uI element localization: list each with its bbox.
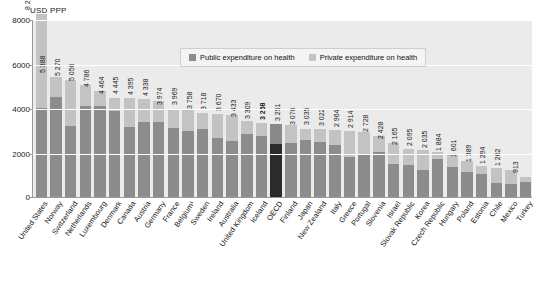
bar-segment-public <box>491 183 502 197</box>
bar-segment-private <box>226 115 237 141</box>
y-axis-tick-label: 4000 <box>12 105 30 114</box>
bar-value-label: 3 268 <box>259 103 267 121</box>
bar-column: 3 670 <box>226 115 237 197</box>
bar-value-label: 4 338 <box>142 79 150 97</box>
bar-segment-public <box>270 144 281 197</box>
bar-column: 3 251 <box>285 125 296 197</box>
bar-segment-public <box>403 165 414 197</box>
legend-label-public: Public expenditure on health <box>200 53 295 62</box>
bar-value-label: 4 395 <box>127 78 135 96</box>
bar-segment-public <box>285 143 296 198</box>
bar-segment-private <box>138 99 149 122</box>
bar-value-label: 3 718 <box>201 93 209 111</box>
y-axis-tick-label: 8000 <box>12 16 30 25</box>
bar-value-label: 4 786 <box>83 69 91 87</box>
bar-segment-public <box>417 170 428 197</box>
bar-segment-public <box>256 136 267 197</box>
bar-column: 2 095 <box>417 150 428 197</box>
bar-value-label: 2 165 <box>391 127 399 145</box>
bar-column: 5 388 <box>50 77 61 197</box>
bar-value-label: 1 601 <box>450 140 458 158</box>
bar-column: 4 395 <box>138 99 149 197</box>
bar-value-label: 2 095 <box>406 129 414 147</box>
bar-column: 4 445 <box>124 98 135 197</box>
bar-segment-public <box>94 106 105 197</box>
bar-value-label: 4 445 <box>113 77 121 95</box>
gridline <box>33 109 532 110</box>
gridline <box>33 20 532 21</box>
y-axis-tick-mark <box>30 20 33 21</box>
bar-value-label: 3 969 <box>171 87 179 105</box>
y-axis-tick-mark <box>30 65 33 66</box>
bar-value-label: 4 464 <box>98 76 106 94</box>
bar-segment-public <box>505 184 516 197</box>
bar-segment-private <box>65 80 76 126</box>
bar-segment-private <box>285 125 296 143</box>
x-axis-category-labels: United StatesNorwaySwitzerlandNetherland… <box>33 200 533 292</box>
bar-value-label: 5 056 <box>69 63 77 81</box>
bar-column: 1 202 <box>505 170 516 197</box>
bar-segment-private <box>212 114 223 138</box>
bar-segment-public <box>447 167 458 197</box>
bar-segment-public <box>432 159 443 197</box>
bar-value-label: 3 309 <box>245 102 253 120</box>
bar-column: 4 464 <box>109 98 120 197</box>
bar-segment-public <box>388 164 399 197</box>
bar-segment-private <box>476 166 487 174</box>
bar-value-label: 3 758 <box>186 92 194 110</box>
bar-value-label: 5 270 <box>54 58 62 76</box>
bar-column: 1 389 <box>476 166 487 197</box>
bar-column: 3 022 <box>329 130 340 197</box>
chart-legend: Public expenditure on health Private exp… <box>180 48 426 67</box>
bar-segment-public <box>344 157 355 197</box>
bar-segment-private <box>270 124 281 143</box>
bar-value-label: 2 728 <box>362 115 370 133</box>
bar-segment-private <box>314 129 325 142</box>
y-axis-tick-label: 0 <box>26 193 30 202</box>
bar-column: 1 884 <box>447 155 458 197</box>
bar-column: 913 <box>520 177 531 197</box>
bar-column: 2 914 <box>358 132 369 197</box>
bar-value-label: 3 251 <box>274 103 282 121</box>
bar-segment-public <box>300 140 311 197</box>
bar-segment-private <box>300 129 311 141</box>
bar-segment-public <box>241 134 252 197</box>
bar-column: 2 728 <box>373 136 384 197</box>
bar-value-label: 3 022 <box>318 108 326 126</box>
bar-segment-public <box>314 142 325 197</box>
bar-column: 2 165 <box>403 149 414 197</box>
bar-segment-private <box>197 113 208 128</box>
bar-segment-private <box>80 85 91 106</box>
bar-segment-public <box>168 128 179 197</box>
bar-column: 5 270 <box>65 80 76 197</box>
bar-column: 3 758 <box>197 113 208 197</box>
bar-segment-public <box>476 174 487 197</box>
bar-column: 1 294 <box>491 168 502 197</box>
y-axis-tick-mark <box>30 109 33 110</box>
bar-column: 5 056 <box>80 85 91 197</box>
bar-segment-public <box>182 131 193 197</box>
legend-swatch-private-icon <box>309 54 316 61</box>
bar-value-label: 913 <box>512 161 520 173</box>
bar-segment-private <box>256 123 267 136</box>
bar-column: 8 233 <box>36 14 47 197</box>
bar-segment-private <box>461 161 472 172</box>
bar-segment-public <box>358 154 369 197</box>
bar-segment-public <box>138 122 149 197</box>
bar-value-label: 2 428 <box>377 121 385 139</box>
bar-value-label: 3 974 <box>157 87 165 105</box>
bar-column: 2 964 <box>344 131 355 197</box>
gridline <box>33 154 532 155</box>
bar-segment-public <box>36 108 47 197</box>
y-axis-tick-mark <box>30 154 33 155</box>
bar-segment-public <box>50 97 61 197</box>
bar-column: 3 718 <box>212 114 223 197</box>
bar-column: 3 035 <box>314 129 325 197</box>
bar-segment-private <box>241 121 252 134</box>
bar-column: 4 786 <box>94 91 105 197</box>
bar-value-label: 1 884 <box>436 134 444 152</box>
bar-column: 3 268 <box>270 124 281 197</box>
legend-item-public: Public expenditure on health <box>189 53 295 62</box>
bar-segment-public <box>197 129 208 197</box>
health-expenditure-chart: USD PPP 8 2335 3885 2705 0564 7864 4644 … <box>0 0 542 294</box>
